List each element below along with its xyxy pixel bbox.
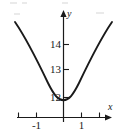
y-axis-ticks (64, 45, 70, 98)
y-axis-arrowhead (60, 10, 66, 17)
y-axis-label: y (67, 9, 71, 19)
x-axis-arrowhead (105, 114, 112, 120)
scan-artifact (14, 13, 20, 15)
y-tick-label-13: 13 (41, 64, 61, 75)
parabola-figure: 14 13 12 -1 1 x y (0, 0, 124, 137)
x-tick-label--1: -1 (26, 120, 47, 131)
y-tick-label-14: 14 (41, 39, 61, 50)
scan-artifact (10, 2, 17, 4)
graph-canvas (0, 0, 124, 137)
x-axis-ticks (19, 113, 100, 118)
scan-artifact (62, 2, 68, 4)
x-tick-label-1: 1 (72, 120, 91, 131)
x-axis-label: x (108, 102, 112, 112)
y-tick-label-12: 12 (41, 92, 61, 103)
scan-artifact (22, 2, 27, 4)
scan-artifact (96, 12, 104, 14)
